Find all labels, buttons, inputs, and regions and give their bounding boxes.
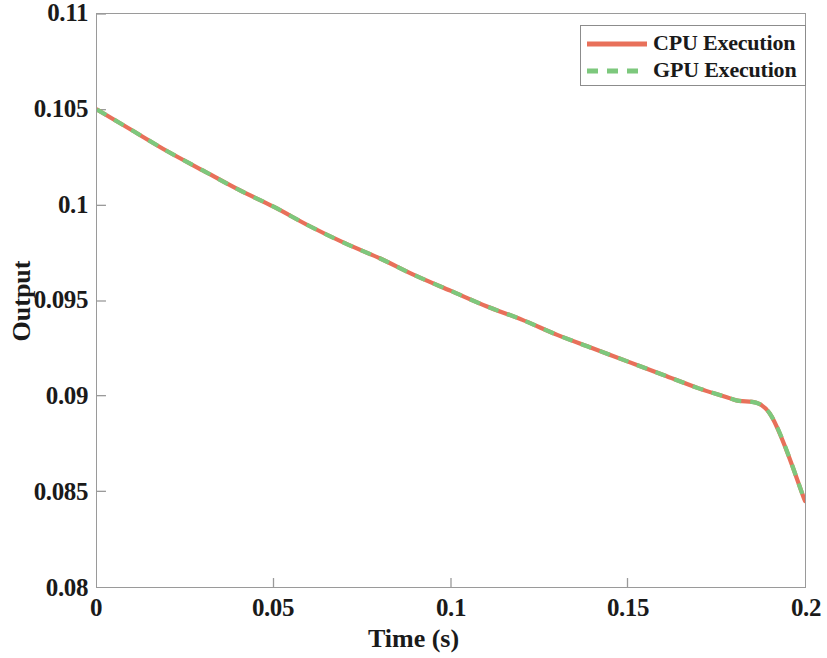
legend-entry-cpu: CPU Execution — [586, 29, 799, 56]
chart-legend: CPU Execution GPU Execution — [580, 25, 806, 86]
series-line-gpu — [97, 109, 805, 501]
x-tick-label: 0.2 — [791, 594, 821, 622]
legend-label-cpu: CPU Execution — [653, 30, 795, 56]
chart-figure: 0.11 0.105 0.1 0.095 0.09 0.085 0.08 Out… — [0, 0, 827, 658]
y-tick-label: 0.11 — [47, 0, 88, 27]
x-axis-ticks — [274, 578, 628, 587]
x-tick-label: 0.05 — [252, 594, 294, 622]
x-tick-label: 0 — [90, 594, 102, 622]
legend-entry-gpu: GPU Execution — [586, 56, 799, 83]
legend-swatch-dashed-line-icon — [586, 67, 648, 73]
plot-area — [96, 13, 806, 588]
x-tick-label: 0.1 — [436, 594, 466, 622]
y-axis-title: Output — [7, 260, 37, 341]
y-tick-label: 0.09 — [46, 382, 88, 410]
y-axis-ticks — [97, 14, 106, 491]
series-line-cpu — [97, 109, 805, 501]
legend-label-gpu: GPU Execution — [653, 57, 796, 83]
plot-canvas — [97, 14, 805, 587]
y-axis-title-wrap: Output — [0, 0, 52, 601]
x-axis-title: Time (s) — [0, 624, 827, 654]
x-tick-label: 0.15 — [607, 594, 649, 622]
legend-swatch-solid-line-icon — [586, 40, 648, 46]
y-tick-label: 0.1 — [58, 191, 88, 219]
